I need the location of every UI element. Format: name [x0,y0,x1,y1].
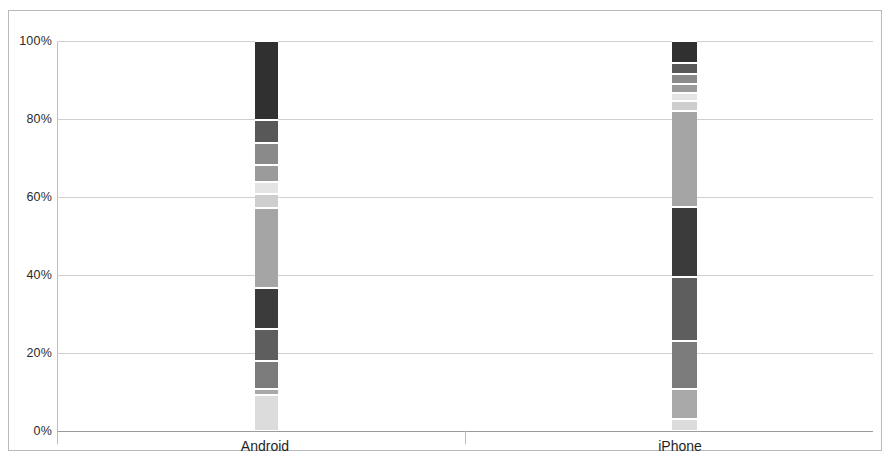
bar-segment[interactable] [672,419,697,431]
bar-segment[interactable] [255,120,278,143]
bar-segment[interactable] [672,93,697,101]
y-axis: 100% 80% 60% 40% 20% 0% [0,41,52,431]
y-tick-label-40: 40% [6,269,52,282]
bar-segment[interactable] [255,395,278,431]
y-tick-label-80: 80% [6,113,52,126]
y-tick-label-100: 100% [6,35,52,48]
plot-area [57,41,873,431]
bar-segment[interactable] [255,143,278,165]
bar-segment[interactable] [255,361,278,389]
y-tick-label-0: 0% [6,425,52,438]
y-tick-label-20: 20% [6,347,52,360]
bar-iphone[interactable] [672,41,697,431]
bar-segment[interactable] [255,329,278,361]
gridline-40 [57,275,873,276]
bar-segment[interactable] [672,111,697,207]
bar-segment[interactable] [672,101,697,111]
bar-segment[interactable] [672,84,697,93]
bar-segment[interactable] [672,389,697,419]
bar-segment[interactable] [255,208,278,288]
bar-segment[interactable] [255,194,278,208]
bar-segment[interactable] [672,341,697,389]
y-tick-label-60: 60% [6,191,52,204]
bar-segment[interactable] [255,389,278,395]
x-axis-start-tick [57,431,58,444]
bar-segment[interactable] [672,63,697,74]
category-label-iphone: iPhone [620,436,740,456]
bar-segment[interactable] [672,207,697,277]
bar-segment[interactable] [672,41,697,63]
bar-segment[interactable] [255,182,278,194]
gridline-60 [57,197,873,198]
bar-segment[interactable] [255,165,278,182]
bar-segment[interactable] [672,74,697,84]
gridline-100 [57,41,873,42]
category-label-android: Android [205,436,325,456]
gridline-80 [57,119,873,120]
bar-segment[interactable] [255,41,278,120]
bar-segment[interactable] [255,288,278,329]
bar-android[interactable] [255,41,278,431]
gridline-20 [57,353,873,354]
category-divider-tick [465,431,466,444]
chart-screenshot: 100% 80% 60% 40% 20% 0% Android iPhone [0,0,888,459]
bar-segment[interactable] [672,277,697,341]
